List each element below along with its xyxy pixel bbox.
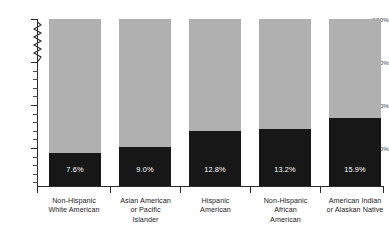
category-label-line: White American (38, 205, 110, 214)
bar-group-5: 15.9% (329, 19, 381, 186)
bar-value-label: 9.0% (119, 165, 171, 174)
bar-segment-remainder (329, 19, 381, 118)
y-tick-20 (31, 105, 38, 106)
bar-value-label: 13.2% (259, 165, 311, 174)
y-minor-tick (33, 114, 38, 115)
bar-value-label: 15.9% (329, 165, 381, 174)
y-minor-tick (33, 139, 38, 140)
y-minor-tick (33, 182, 38, 183)
bar-segment-remainder (49, 19, 101, 153)
y-minor-tick (33, 79, 38, 80)
category-label-line: African (251, 205, 320, 214)
bar-value-label: 12.8% (189, 165, 241, 174)
y-tick-10 (31, 148, 38, 149)
category-label-line: Islander (111, 215, 180, 224)
y-tick-30 (31, 62, 38, 63)
category-label-line: American (181, 205, 250, 214)
category-label-1: Non-Hispanic White American (38, 196, 110, 215)
category-label-line: Asian American (111, 196, 180, 205)
bar-segment-remainder (189, 19, 241, 131)
category-label-2: Asian American or Pacific Islander (111, 196, 180, 224)
stacked-bar-chart: 100% 30% 20% 10% 7.6% 9.0% (0, 0, 389, 242)
y-minor-tick (33, 88, 38, 89)
category-axis-tick (250, 186, 251, 193)
category-label-3: Hispanic American (181, 196, 250, 215)
category-axis-tick-start (37, 186, 38, 193)
category-label-4: Non-Hispanic African American (251, 196, 320, 224)
category-label-line: or Alaskan Native (321, 205, 389, 214)
category-axis-tick-end (383, 186, 384, 193)
bar-value-label: 7.6% (49, 165, 101, 174)
category-label-line: American (251, 215, 320, 224)
category-label-line: American Indian (321, 196, 389, 205)
category-axis-tick (320, 186, 321, 193)
y-minor-tick (33, 131, 38, 132)
y-minor-tick (33, 165, 38, 166)
category-label-line: Non-Hispanic (38, 196, 110, 205)
plot-area: 100% 30% 20% 10% 7.6% 9.0% (0, 0, 389, 242)
y-minor-tick (33, 157, 38, 158)
bar-segment-highlight (189, 131, 241, 186)
category-axis-tick (180, 186, 181, 193)
category-axis-tick (110, 186, 111, 193)
y-minor-tick (33, 122, 38, 123)
category-label-line: Hispanic (181, 196, 250, 205)
bar-group-2: 9.0% (119, 19, 171, 186)
bar-group-4: 13.2% (259, 19, 311, 186)
bar-segment-highlight (329, 118, 381, 186)
y-tick-100 (31, 19, 38, 20)
bar-segment-highlight (259, 129, 311, 186)
category-label-line: or Pacific (111, 205, 180, 214)
category-label-5: American Indian or Alaskan Native (321, 196, 389, 215)
bar-segment-remainder (119, 19, 171, 147)
bar-group-1: 7.6% (49, 19, 101, 186)
bar-segment-remainder (259, 19, 311, 129)
y-minor-tick (33, 71, 38, 72)
y-minor-tick (33, 96, 38, 97)
x-axis-baseline (37, 186, 383, 187)
category-label-line: Non-Hispanic (251, 196, 320, 205)
y-axis-break-icon (30, 22, 46, 62)
bar-group-3: 12.8% (189, 19, 241, 186)
y-minor-tick (33, 174, 38, 175)
